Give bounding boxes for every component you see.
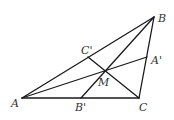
label-b1: B'	[74, 101, 86, 114]
cevian-BB1-line	[81, 17, 154, 98]
cevian-CC1-line	[88, 57, 139, 98]
segments	[22, 17, 154, 98]
point-labels: ABCA'B'C'M	[10, 12, 166, 114]
label-a: A	[10, 97, 19, 110]
label-m: M	[97, 76, 110, 89]
label-b: B	[157, 12, 166, 25]
label-c: C	[139, 101, 148, 114]
label-c1: C'	[81, 44, 92, 57]
cevian-AA1-line	[22, 57, 147, 98]
triangle-cevians-diagram: ABCA'B'C'M	[0, 0, 174, 120]
label-a1: A'	[150, 54, 162, 67]
